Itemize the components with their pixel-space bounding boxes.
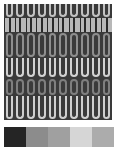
texture-tile bbox=[58, 4, 69, 18]
texture-tile bbox=[80, 96, 91, 120]
texture-tile bbox=[69, 18, 80, 32]
texture-tile bbox=[4, 18, 15, 32]
texture-tile bbox=[101, 18, 112, 32]
texture-tile bbox=[90, 58, 101, 78]
texture-tile bbox=[90, 4, 101, 18]
texture-band bbox=[4, 18, 112, 32]
texture-tile bbox=[101, 96, 112, 120]
texture-tile bbox=[36, 96, 47, 120]
texture-pattern bbox=[4, 4, 112, 120]
texture-tile bbox=[90, 96, 101, 120]
texture-tile bbox=[26, 58, 37, 78]
texture-tile bbox=[58, 58, 69, 78]
texture-tile bbox=[26, 4, 37, 18]
texture-band bbox=[4, 78, 112, 96]
texture-tile bbox=[4, 4, 15, 18]
texture-tile bbox=[58, 32, 69, 58]
texture-band bbox=[4, 58, 112, 78]
palette-swatch bbox=[48, 127, 70, 147]
texture-tile bbox=[26, 32, 37, 58]
texture-tile bbox=[69, 96, 80, 120]
texture-tile bbox=[47, 32, 58, 58]
texture-tile bbox=[69, 4, 80, 18]
texture-tile bbox=[80, 32, 91, 58]
texture-tile bbox=[80, 78, 91, 96]
texture-tile bbox=[26, 18, 37, 32]
texture-band bbox=[4, 4, 112, 18]
texture-band bbox=[4, 96, 112, 120]
texture-tile bbox=[36, 78, 47, 96]
texture-tile bbox=[58, 18, 69, 32]
texture-tile bbox=[47, 96, 58, 120]
texture-tile bbox=[80, 58, 91, 78]
texture-band bbox=[4, 32, 112, 58]
texture-tile bbox=[69, 32, 80, 58]
texture-tile bbox=[69, 58, 80, 78]
texture-tile bbox=[90, 32, 101, 58]
texture-tile bbox=[15, 78, 26, 96]
texture-tile bbox=[26, 78, 37, 96]
texture-tile bbox=[4, 32, 15, 58]
texture-tile bbox=[15, 18, 26, 32]
texture-tile bbox=[101, 32, 112, 58]
texture-tile bbox=[15, 4, 26, 18]
texture-tile bbox=[47, 58, 58, 78]
texture-tile bbox=[26, 96, 37, 120]
texture-tile bbox=[101, 78, 112, 96]
texture-tile bbox=[90, 18, 101, 32]
texture-tile bbox=[4, 78, 15, 96]
color-palette bbox=[4, 127, 114, 147]
texture-tile bbox=[36, 32, 47, 58]
texture-tile bbox=[47, 78, 58, 96]
texture-tile bbox=[80, 18, 91, 32]
palette-swatch bbox=[92, 127, 114, 147]
texture-tile bbox=[69, 78, 80, 96]
texture-tile bbox=[58, 78, 69, 96]
texture-tile bbox=[4, 96, 15, 120]
texture-tile bbox=[90, 78, 101, 96]
palette-swatch bbox=[26, 127, 48, 147]
texture-tile bbox=[36, 4, 47, 18]
texture-tile bbox=[15, 58, 26, 78]
texture-tile bbox=[47, 4, 58, 18]
texture-tile bbox=[58, 96, 69, 120]
texture-tile bbox=[36, 58, 47, 78]
palette-swatch bbox=[70, 127, 92, 147]
texture-tile bbox=[4, 58, 15, 78]
palette-swatch bbox=[4, 127, 26, 147]
texture-tile bbox=[47, 18, 58, 32]
texture-tile bbox=[101, 4, 112, 18]
texture-tile bbox=[15, 32, 26, 58]
texture-tile bbox=[101, 58, 112, 78]
texture-tile bbox=[15, 96, 26, 120]
texture-tile bbox=[36, 18, 47, 32]
texture-tile bbox=[80, 4, 91, 18]
